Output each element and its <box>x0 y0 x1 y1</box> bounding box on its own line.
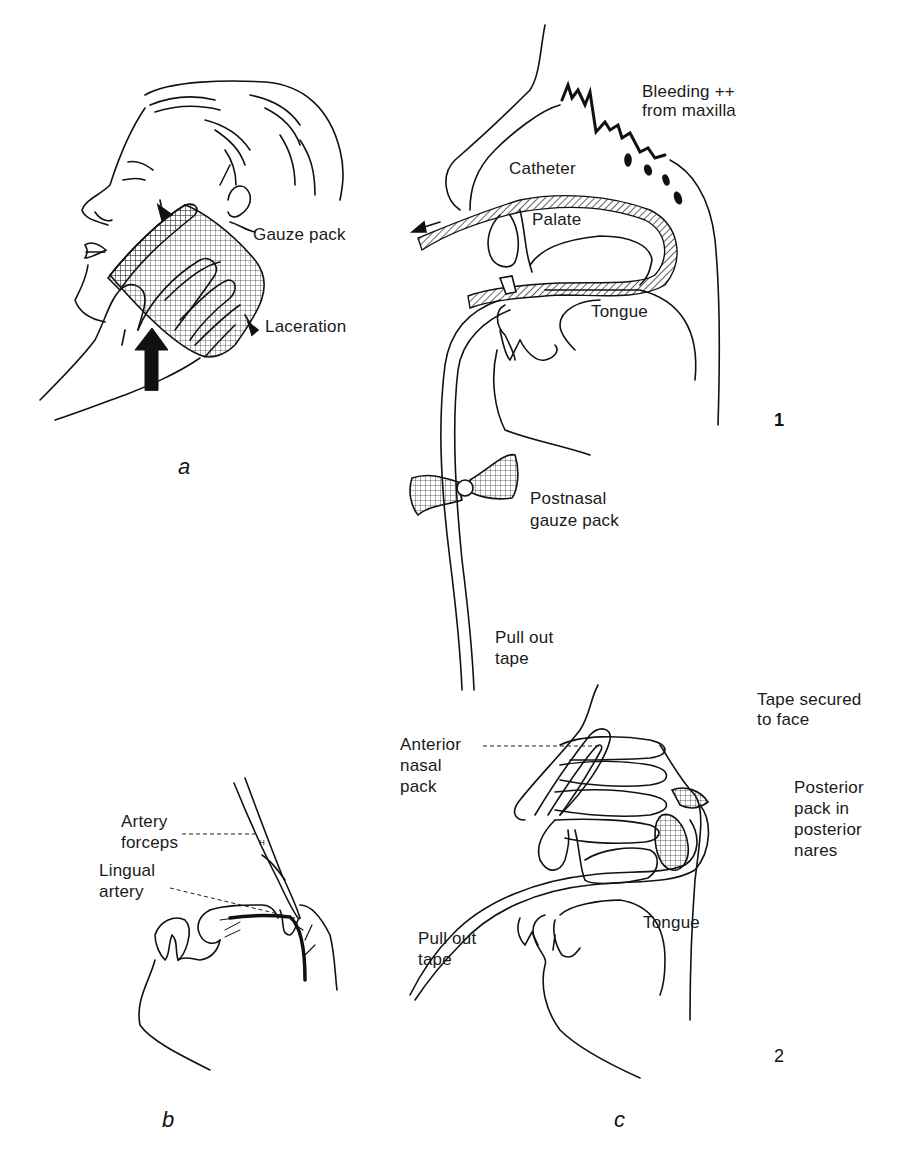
label-posterior-line3: posterior <box>794 820 862 840</box>
svg-text:H: H <box>259 838 265 847</box>
step-number-2: 2 <box>774 1046 784 1067</box>
panel-label-a: a <box>178 454 190 480</box>
label-pull-out-step2-line2: tape <box>418 950 452 970</box>
label-posterior-line4: nares <box>794 841 838 861</box>
label-lingual-artery-line1: Lingual <box>99 861 155 881</box>
panel-label-b: b <box>162 1107 174 1133</box>
panel-label-c: c <box>614 1107 625 1133</box>
panel-a-drawing <box>40 81 343 420</box>
label-artery-forceps-line2: forceps <box>121 833 178 853</box>
label-posterior-line1: Posterior <box>794 778 864 798</box>
label-anterior-line2: nasal <box>400 756 442 776</box>
label-bleeding-line1: Bleeding ++ <box>642 82 735 102</box>
label-artery-forceps-line1: Artery <box>121 812 168 832</box>
label-pull-out-step1-line2: tape <box>495 649 529 669</box>
label-pull-out-step1-line1: Pull out <box>495 628 553 648</box>
label-laceration: Laceration <box>265 317 346 337</box>
label-tongue-step2: Tongue <box>643 913 700 933</box>
label-posterior-line2: pack in <box>794 799 849 819</box>
label-postnasal-line1: Postnasal <box>530 489 606 509</box>
label-anterior-line3: pack <box>400 777 437 797</box>
label-tongue-step1: Tongue <box>591 302 648 322</box>
leader-lines <box>170 746 602 918</box>
label-bleeding-line2: from maxilla <box>642 101 736 121</box>
label-palate: Palate <box>532 210 581 230</box>
label-tape-secured-line1: Tape secured <box>757 690 861 710</box>
illustration: H <box>0 0 904 1150</box>
label-postnasal-line2: gauze pack <box>530 511 619 531</box>
label-anterior-line1: Anterior <box>400 735 461 755</box>
label-gauze-pack: Gauze pack <box>253 225 346 245</box>
step-number-1: 1 <box>774 410 784 431</box>
panel-c1-drawing <box>410 25 719 690</box>
panel-b-drawing: H <box>139 778 337 1070</box>
label-lingual-artery-line2: artery <box>99 882 144 902</box>
figure-caption-clipped <box>260 1140 880 1150</box>
label-pull-out-step2-line1: Pull out <box>418 929 476 949</box>
label-tape-secured-line2: to face <box>757 710 809 730</box>
figure-canvas: H <box>0 0 904 1150</box>
label-catheter: Catheter <box>509 159 576 179</box>
